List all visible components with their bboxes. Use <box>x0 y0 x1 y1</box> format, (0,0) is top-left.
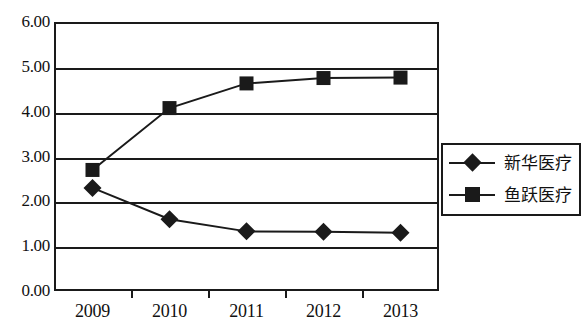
y-axis-tick-label: 2.00 <box>0 192 50 209</box>
gridline <box>56 247 437 249</box>
legend-entry-1[interactable]: 鱼跃医疗 <box>449 180 572 210</box>
square-marker-icon <box>449 184 495 206</box>
y-axis-tick-label: 1.00 <box>0 237 50 254</box>
x-axis: 20092010201120122013 <box>0 299 577 327</box>
gridline <box>56 113 437 115</box>
gridline <box>56 158 437 160</box>
legend-label-1: 鱼跃医疗 <box>504 185 572 205</box>
y-axis-tick-label: 6.00 <box>0 13 50 30</box>
y-axis: 0.001.002.003.004.005.006.00 <box>0 0 50 327</box>
gridline <box>56 68 437 70</box>
legend-label-0: 新华医疗 <box>504 153 572 173</box>
x-axis-tick-label: 2011 <box>212 299 282 323</box>
y-axis-tick-label: 4.00 <box>0 103 50 120</box>
diamond-marker-icon <box>449 152 495 174</box>
x-axis-tick <box>362 291 364 298</box>
x-axis-tick <box>208 291 210 298</box>
x-axis-ticks <box>54 291 439 299</box>
x-axis-tick-label: 2010 <box>135 299 205 323</box>
y-axis-tick-label: 3.00 <box>0 148 50 165</box>
y-axis-tick-label: 0.00 <box>0 282 50 299</box>
x-axis-tick <box>131 291 133 298</box>
x-axis-tick <box>285 291 287 298</box>
x-axis-tick-label: 2013 <box>366 299 436 323</box>
x-axis-tick-label: 2009 <box>58 299 128 323</box>
y-axis-tick-label: 5.00 <box>0 58 50 75</box>
x-axis-tick-label: 2012 <box>289 299 359 323</box>
legend-entry-0[interactable]: 新华医疗 <box>449 148 572 178</box>
legend: 新华医疗 鱼跃医疗 <box>441 143 581 216</box>
plot-area <box>54 22 439 291</box>
gridline <box>56 202 437 204</box>
